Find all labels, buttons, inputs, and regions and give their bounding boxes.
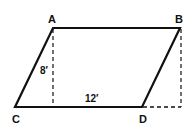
vertex-label-a: A [48,13,56,25]
height-label: 8′ [40,65,49,76]
vertex-label-d: D [139,113,147,125]
vertex-label-b: B [175,13,183,25]
base-label: 12′ [85,93,99,104]
parallelogram-diagram: A B C D 8′ 12′ [0,0,188,130]
vertex-label-c: C [12,113,20,125]
